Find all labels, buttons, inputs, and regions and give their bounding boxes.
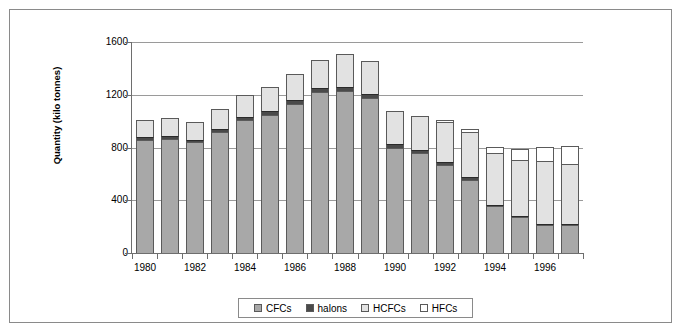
bar-segment-cfcs-1981 [161, 139, 179, 253]
bar-segment-cfcs-1997 [561, 225, 579, 253]
bar-1994[interactable] [486, 147, 504, 253]
bar-segment-hcfcs-1993 [461, 132, 479, 177]
y-tick-label-1600: 1600 [88, 37, 128, 47]
bar-1992[interactable] [436, 120, 454, 253]
bar-segment-hcfcs-1985 [261, 87, 279, 111]
bar-1989[interactable] [361, 61, 379, 253]
bar-1996[interactable] [536, 147, 554, 253]
bar-1995[interactable] [511, 149, 529, 253]
bar-segment-cfcs-1995 [511, 217, 529, 253]
x-tick-mark-16 [533, 254, 534, 259]
bar-segment-cfcs-1989 [361, 98, 379, 253]
y-tick-mark-1200 [125, 95, 131, 96]
bar-segment-hcfcs-1995 [511, 160, 529, 216]
x-tick-mark-15 [508, 254, 509, 259]
bar-segment-hcfcs-1991 [411, 116, 429, 150]
x-tick-mark-18 [583, 254, 584, 259]
x-tick-mark-5 [257, 254, 258, 259]
gridline-1600 [132, 42, 583, 43]
bar-1997[interactable] [561, 146, 579, 253]
x-tick-label-1994: 1994 [475, 262, 515, 273]
y-axis-title: Quantity (kilo tonnes) [51, 61, 62, 171]
y-tick-label-1200: 1200 [88, 90, 128, 100]
legend-item-cfcs[interactable]: CFCs [254, 303, 292, 314]
legend-swatch-icon-halons [306, 304, 314, 312]
y-tick-label-800: 800 [88, 143, 128, 153]
legend-swatch-icon-hfcs [420, 304, 428, 312]
x-tick-mark-0 [132, 254, 133, 259]
x-tick-mark-12 [433, 254, 434, 259]
x-tick-mark-2 [182, 254, 183, 259]
bar-segment-hfcs-1997 [561, 146, 579, 164]
figure-frame: Quantity (kilo tonnes) 040080012001600 1… [9, 9, 672, 323]
bar-segment-hcfcs-1997 [561, 164, 579, 224]
legend-label-cfcs: CFCs [266, 303, 292, 314]
legend-label-hcfcs: HCFCs [373, 303, 406, 314]
gridline-1200 [132, 95, 583, 96]
bar-segment-hcfcs-1984 [236, 95, 254, 117]
bar-segment-hfcs-1996 [536, 147, 554, 161]
x-tick-label-1990: 1990 [375, 262, 415, 273]
bar-segment-hfcs-1995 [511, 149, 529, 160]
bar-segment-cfcs-1992 [436, 165, 454, 253]
bar-segment-hcfcs-1992 [436, 122, 454, 162]
y-tick-mark-800 [125, 148, 131, 149]
x-tick-label-1986: 1986 [275, 262, 315, 273]
x-tick-label-1992: 1992 [425, 262, 465, 273]
bar-segment-cfcs-1994 [486, 206, 504, 253]
bar-segment-cfcs-1993 [461, 180, 479, 253]
bar-1986[interactable] [286, 74, 304, 253]
x-tick-mark-13 [458, 254, 459, 259]
x-tick-mark-7 [307, 254, 308, 259]
x-tick-mark-17 [558, 254, 559, 259]
bar-1984[interactable] [236, 95, 254, 253]
chart-legend: CFCshalonsHCFCsHFCs [238, 298, 473, 318]
bar-segment-cfcs-1980 [136, 140, 154, 253]
bar-segment-hcfcs-1987 [311, 60, 329, 88]
bar-segment-hcfcs-1980 [136, 120, 154, 136]
bar-segment-cfcs-1982 [186, 142, 204, 253]
legend-swatch-icon-hcfcs [361, 304, 369, 312]
bar-segment-hcfcs-1988 [336, 54, 354, 87]
bar-1982[interactable] [186, 122, 204, 253]
x-tick-label-1984: 1984 [225, 262, 265, 273]
bar-segment-hcfcs-1989 [361, 61, 379, 94]
x-tick-mark-11 [408, 254, 409, 259]
plot-area [132, 42, 583, 253]
bar-1991[interactable] [411, 116, 429, 253]
bar-segment-cfcs-1987 [311, 92, 329, 253]
y-tick-mark-1600 [125, 42, 131, 43]
bar-segment-cfcs-1990 [386, 148, 404, 254]
legend-swatch-icon-cfcs [254, 304, 262, 312]
bar-segment-hcfcs-1990 [386, 111, 404, 144]
bar-segment-hcfcs-1982 [186, 122, 204, 139]
legend-item-hfcs[interactable]: HFCs [420, 303, 458, 314]
legend-item-hcfcs[interactable]: HCFCs [361, 303, 406, 314]
bar-1990[interactable] [386, 111, 404, 253]
bar-1980[interactable] [136, 120, 154, 253]
x-tick-mark-6 [282, 254, 283, 259]
bar-1981[interactable] [161, 118, 179, 253]
bar-segment-hcfcs-1994 [486, 153, 504, 204]
x-tick-mark-3 [207, 254, 208, 259]
bar-1983[interactable] [211, 109, 229, 253]
bar-1993[interactable] [461, 129, 479, 253]
x-tick-label-1982: 1982 [175, 262, 215, 273]
x-tick-mark-10 [383, 254, 384, 259]
y-tick-mark-400 [125, 200, 131, 201]
bar-segment-cfcs-1983 [211, 132, 229, 253]
y-tick-label-400: 400 [88, 195, 128, 205]
bar-segment-cfcs-1996 [536, 225, 554, 253]
x-tick-mark-8 [332, 254, 333, 259]
x-tick-label-1996: 1996 [525, 262, 565, 273]
bar-segment-cfcs-1988 [336, 91, 354, 253]
legend-item-halons[interactable]: halons [306, 303, 347, 314]
bar-1985[interactable] [261, 87, 279, 253]
bar-1988[interactable] [336, 54, 354, 253]
bar-segment-hcfcs-1981 [161, 118, 179, 136]
x-tick-mark-1 [157, 254, 158, 259]
bar-1987[interactable] [311, 60, 329, 253]
x-tick-label-1988: 1988 [325, 262, 365, 273]
bar-segment-hcfcs-1996 [536, 161, 554, 224]
bar-segment-hcfcs-1983 [211, 109, 229, 129]
